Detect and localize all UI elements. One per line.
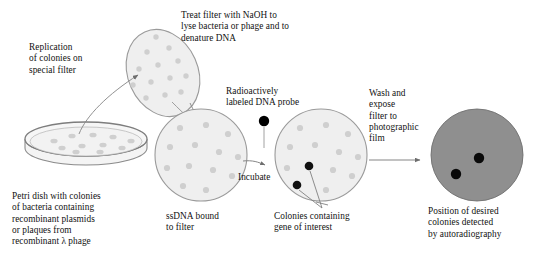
label-wash-expose: Wash and expose filter to photographic f… (369, 88, 441, 144)
petri-dish (25, 122, 147, 165)
ssdna-filter (155, 109, 247, 201)
label-autoradiography: Position of desired colonies detected by… (428, 206, 550, 240)
label-colonies-gene: Colonies containing gene of interest (274, 211, 389, 234)
autoradiograph-film (431, 109, 523, 201)
label-replication: Replication of colonies on special filte… (29, 42, 124, 76)
figure-canvas: Replication of colonies on special filte… (0, 0, 550, 261)
label-petri-dish: Petri dish with colonies of bacteria con… (12, 191, 157, 247)
label-treat-filter: Treat filter with NaOH to lyse bacteria … (181, 10, 356, 44)
label-ssdna: ssDNA bound to filter (166, 211, 266, 234)
label-probe: Radioactively labeled DNA probe (226, 86, 336, 109)
probed-filter (275, 109, 367, 201)
probe-dot (259, 116, 269, 126)
label-incubate: Incubate (238, 172, 298, 183)
